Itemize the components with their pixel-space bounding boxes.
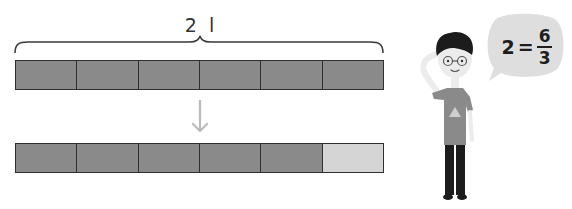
equation-lhs: 2 — [502, 36, 515, 58]
speech-bubble-equation: 2 = 6 3 — [497, 22, 557, 72]
fraction-diagram: 2 l — [0, 0, 572, 209]
boy-character — [0, 0, 572, 209]
fraction-denominator: 3 — [537, 49, 553, 67]
equals-sign: = — [518, 36, 534, 58]
fraction: 6 3 — [537, 27, 553, 67]
fraction-numerator: 6 — [537, 27, 553, 45]
